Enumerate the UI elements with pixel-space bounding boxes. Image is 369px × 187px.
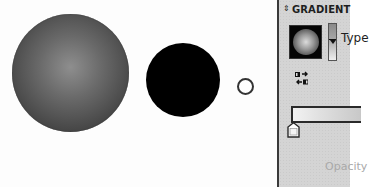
black-filled-circle[interactable] (146, 43, 220, 117)
gradient-color-stop[interactable] (287, 122, 300, 138)
artboard-canvas[interactable] (0, 0, 278, 187)
chevron-down-icon (330, 40, 336, 44)
gradient-preview-swatch[interactable] (289, 25, 322, 59)
opacity-label: Opacity (325, 160, 367, 173)
gradient-filled-circle[interactable] (12, 14, 129, 132)
reverse-gradient-button[interactable] (295, 71, 309, 86)
preview-sphere (293, 29, 319, 55)
panel-title: GRADIENT (292, 4, 351, 15)
gradient-slider-bar[interactable] (291, 106, 361, 123)
panel-header[interactable]: ⇕ GRADIENT (283, 2, 351, 16)
gradient-panel: ⇕ GRADIENT Type (277, 0, 350, 187)
type-label: Type (341, 31, 369, 45)
reverse-gradient-icon (295, 71, 309, 86)
small-outline-circle[interactable] (237, 78, 254, 95)
gradient-type-dropdown-button[interactable] (328, 23, 337, 61)
color-stop-icon (287, 122, 300, 138)
up-down-arrows-icon[interactable]: ⇕ (283, 5, 290, 13)
